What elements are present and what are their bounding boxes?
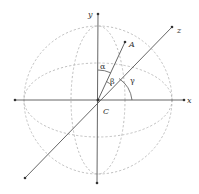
axes (14, 13, 186, 185)
beta-label: β (110, 77, 115, 86)
gamma-label: γ (130, 76, 135, 85)
y-axis-label: y (87, 10, 93, 19)
point-a (124, 41, 127, 44)
z-axis (25, 27, 172, 178)
direction-angles-diagram: y x z A C α β γ (0, 0, 199, 194)
y-axis-pos-end (97, 13, 100, 16)
vector-ca (98, 42, 125, 100)
y-axis-neg-end (96, 182, 99, 185)
y-axis (97, 14, 98, 183)
z-axis-neg-end (24, 177, 27, 180)
x-axis-label: x (187, 96, 192, 105)
x-axis-pos-end (183, 99, 186, 102)
alpha-label: α (100, 62, 106, 71)
z-axis-pos-end (171, 26, 174, 29)
x-axis-neg-end (14, 99, 17, 102)
point-a-label: A (128, 40, 135, 49)
z-axis-label: z (176, 26, 182, 35)
origin-point (97, 99, 100, 102)
origin-label: C (103, 107, 109, 116)
